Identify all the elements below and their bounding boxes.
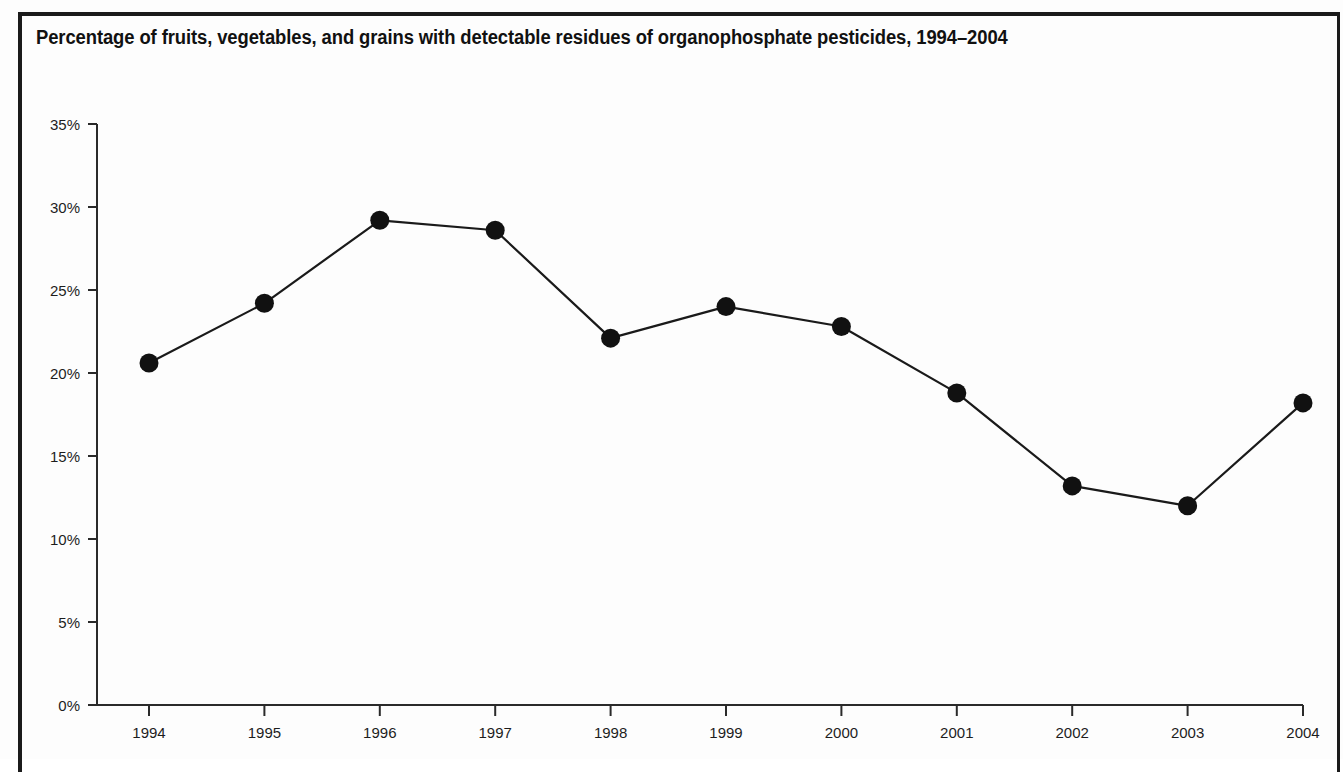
data-point-marker [832,317,851,336]
y-axis-tick-label: 0% [16,697,80,714]
x-axis-tick-label: 1997 [479,724,512,741]
x-axis-tick-label: 1994 [132,724,165,741]
data-point-marker [486,221,505,240]
y-axis-tick-label: 5% [16,614,80,631]
x-axis-tick-label: 1996 [363,724,396,741]
data-point-marker [1178,496,1197,515]
x-axis-tick-label: 1999 [709,724,742,741]
y-axis-tick-label: 10% [16,531,80,548]
y-axis-tick-label: 20% [16,365,80,382]
data-point-marker [947,383,966,402]
x-axis-tick-label: 2000 [825,724,858,741]
x-axis-tick-label: 2001 [940,724,973,741]
data-point-marker [717,297,736,316]
data-point-marker [255,294,274,313]
data-point-marker [140,354,159,373]
y-axis-tick-label: 35% [16,116,80,133]
data-point-marker [370,211,389,230]
x-axis-tick-label: 1995 [248,724,281,741]
data-point-marker [1294,393,1313,412]
axes [88,124,1303,716]
y-axis-tick-label: 25% [16,282,80,299]
x-axis-tick-label: 2003 [1171,724,1204,741]
x-axis-ticks [149,705,1303,716]
y-axis-ticks [88,124,97,705]
y-axis-tick-label: 30% [16,199,80,216]
x-axis-tick-label: 2002 [1056,724,1089,741]
data-point-marker [1063,476,1082,495]
x-axis-tick-label: 2004 [1286,724,1319,741]
series-line [149,220,1303,506]
data-series [140,211,1313,516]
data-point-markers [140,211,1313,516]
data-point-marker [601,329,620,348]
x-axis-tick-label: 1998 [594,724,627,741]
y-axis-tick-label: 15% [16,448,80,465]
